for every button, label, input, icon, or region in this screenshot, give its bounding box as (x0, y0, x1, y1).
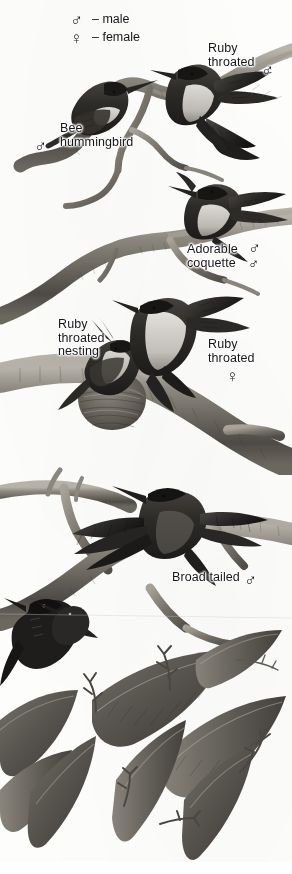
hummingbird-artwork (0, 0, 292, 874)
sex-icon-bee-hummingbird: ♂ (34, 138, 47, 155)
illustration-plate: ♂ – male ♀ – female Ruby throated ♂ Bee … (0, 0, 292, 874)
callout-ruby-throated-female: Ruby throated (208, 338, 255, 365)
callout-ruby-throated-male: Ruby throated (208, 42, 255, 69)
callout-adorable-coquette: Adorable coquette (187, 243, 238, 270)
legend-male-label: – male (92, 11, 130, 28)
sex-icon-adorable-coquette-inline: ♂ (248, 256, 259, 271)
legend-male-icon: ♂ (70, 12, 83, 29)
callout-ruby-throated-nesting: Ruby throated nesting (58, 318, 105, 359)
legend-female-icon: ♀ (70, 30, 83, 47)
callout-bee-hummingbird: Bee hummingbird (60, 122, 133, 149)
sex-icon-broad-tailed: ♂ (244, 572, 257, 589)
sex-icon-ruby-throated-female: ♀ (226, 368, 239, 385)
bottom-paper-margin (0, 862, 292, 874)
callout-broad-tailed: Broad tailed (172, 571, 240, 585)
legend-female-label: – female (92, 29, 140, 46)
sex-icon-ruby-throated-male: ♂ (261, 62, 274, 79)
